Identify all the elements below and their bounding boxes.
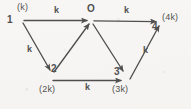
node-label-2: 2	[51, 64, 57, 74]
node-label-3: 3	[114, 67, 120, 77]
edge-O-to-4	[94, 21, 156, 22]
graph-figure: 1 (k) O 4 (4k) 2 (2k) 3 (3k) k k k k k	[0, 0, 191, 109]
edge-weight-O-to-4: k	[124, 6, 129, 15]
edge-2-to-O	[54, 24, 89, 72]
edge-weight-1-to-2: k	[27, 45, 32, 54]
node-label-4: 4	[152, 22, 158, 32]
node-label-O: O	[87, 4, 95, 14]
edge-weight-1-to-O: k	[54, 6, 59, 15]
node-capacity-1: (k)	[17, 3, 28, 12]
node-capacity-2: (2k)	[39, 85, 55, 94]
node-label-1: 1	[7, 15, 13, 25]
edge-weight-3-to-4: k	[143, 46, 148, 55]
edge-weight-2-to-3: k	[85, 83, 90, 92]
node-capacity-3: (3k)	[112, 85, 128, 94]
node-capacity-4: (4k)	[162, 13, 178, 22]
edge-O-to-3	[93, 24, 123, 71]
